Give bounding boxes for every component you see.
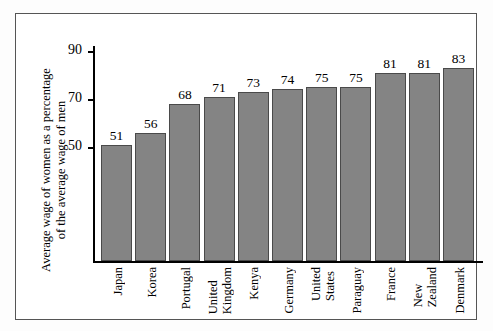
x-axis-category-label: Korea — [145, 267, 159, 298]
x-axis-category-label: Kenya — [247, 267, 261, 300]
bar-value-label: 68 — [178, 87, 192, 103]
bar-value-label: 81 — [383, 56, 397, 72]
y-axis-tick-label: 50 — [68, 138, 82, 154]
bar-value-label: 83 — [452, 51, 466, 67]
bar: 81 — [375, 73, 406, 261]
x-axis-category-label-line: Portugal — [179, 267, 193, 309]
bar-value-label: 51 — [110, 128, 124, 144]
x-axis-category-label-line: United — [309, 267, 323, 301]
bar: 56 — [135, 133, 166, 261]
bar-value-label: 75 — [315, 70, 329, 86]
x-axis-category-label-line: Kenya — [247, 267, 261, 300]
x-axis-category-label-line: Denmark — [453, 267, 467, 314]
bar: 73 — [238, 92, 269, 261]
bar: 71 — [204, 97, 235, 261]
chart-frame: Average wage of women as a percentage of… — [15, 13, 477, 320]
x-axis-category-label-line: United — [206, 267, 220, 314]
y-axis-line — [93, 46, 95, 262]
x-axis-category-label-line: France — [384, 267, 398, 301]
bar: 81 — [409, 73, 440, 261]
y-axis-title: Average wage of women as a percentage of… — [36, 54, 72, 286]
plot-area: 507090 5156687173747575818183 JapanKorea… — [93, 40, 483, 262]
x-axis-category-label-line: Japan — [111, 267, 125, 295]
x-axis-category-label: Denmark — [453, 267, 467, 314]
y-axis-tick-label: 90 — [68, 42, 82, 58]
x-axis-category-label-line: Paraguay — [350, 267, 364, 314]
x-axis-category-label-line: Germany — [282, 267, 296, 314]
x-axis-line — [93, 261, 483, 263]
bar: 74 — [272, 89, 303, 261]
bar: 51 — [101, 145, 132, 261]
y-axis-tick: 50 — [88, 147, 95, 149]
bar-value-label: 71 — [212, 80, 226, 96]
bar: 75 — [306, 87, 337, 261]
bar: 68 — [169, 104, 200, 261]
y-axis-title-line-2: of the average wage of men — [54, 101, 69, 239]
x-axis-category-label: Japan — [111, 267, 125, 295]
x-axis-category-label: UnitedStates — [309, 267, 337, 301]
x-axis-category-label: Germany — [282, 267, 296, 314]
x-axis-category-label: UnitedKingdom — [206, 267, 234, 314]
y-axis-tick: 70 — [88, 99, 95, 101]
y-axis-tick-label: 70 — [68, 90, 82, 106]
bar-value-label: 81 — [418, 56, 432, 72]
bar-value-label: 74 — [281, 72, 295, 88]
x-axis-category-label-line: States — [323, 267, 337, 301]
x-axis-category-label-line: Korea — [145, 267, 159, 298]
y-axis-tick: 90 — [88, 51, 95, 53]
x-axis-category-label-line: Zealand — [425, 267, 439, 307]
bar: 75 — [340, 87, 371, 261]
x-axis-category-label: NewZealand — [411, 267, 439, 307]
bar: 83 — [443, 68, 474, 261]
bar-value-label: 75 — [349, 70, 363, 86]
x-axis-category-label-line: New — [411, 267, 425, 307]
x-axis-category-label: France — [384, 267, 398, 301]
x-axis-category-label-line: Kingdom — [220, 267, 234, 314]
bar-value-label: 56 — [144, 116, 158, 132]
x-axis-category-label: Paraguay — [350, 267, 364, 314]
x-axis-category-label: Portugal — [179, 267, 193, 309]
bar-value-label: 73 — [247, 75, 261, 91]
figure: Average wage of women as a percentage of… — [0, 0, 493, 331]
y-axis-title-line-1: Average wage of women as a percentage — [39, 68, 54, 272]
